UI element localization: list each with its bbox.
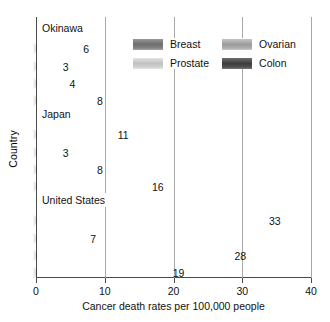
bar-value-label: 33 [264,215,281,227]
bar-value-label: 3 [58,147,69,159]
prostate-swatch [133,58,163,69]
bar-united-states-breast: 33 [37,214,264,227]
x-tick-mark-0 [36,278,37,283]
bar-value-label: 16 [147,181,164,193]
x-axis-title: Cancer death rates per 100,000 people [36,300,311,312]
bar-united-states-prostate: 7 [37,232,85,245]
x-tick-label-30: 30 [236,285,248,297]
group-label-japan: Japan [38,107,77,121]
group-label-united-states: United States [38,193,111,207]
bar-value-label: 11 [113,129,129,141]
colon-swatch [222,58,252,69]
bar-japan-ovarian: 8 [37,163,92,176]
legend-label-colon: Colon [259,57,302,69]
bar-value-label: 8 [92,95,103,107]
legend-label-ovarian: Ovarian [259,38,302,50]
y-axis-title: Country [7,114,19,184]
x-tick-label-0: 0 [33,285,39,297]
bar-value-label: 19 [168,267,185,279]
bar-okinawa-ovarian: 4 [37,77,65,90]
x-tick-label-40: 40 [305,285,317,297]
bar-united-states-ovarian: 28 [37,249,230,262]
x-tick-label-10: 10 [99,285,111,297]
cancer-death-rates-bar-chart: Country 63481138163372819 OkinawaJapanUn… [0,0,330,322]
legend-label-breast: Breast [170,38,215,50]
bar-value-label: 8 [92,164,103,176]
ovarian-swatch [222,39,252,50]
bar-japan-prostate: 3 [37,146,58,159]
bar-okinawa-colon: 8 [37,94,92,107]
bar-value-label: 6 [78,43,89,55]
x-tick-mark-10 [105,278,106,283]
x-tick-mark-20 [174,278,175,283]
bar-japan-colon: 16 [37,180,147,193]
x-tick-mark-30 [242,278,243,283]
group-label-okinawa: Okinawa [38,21,89,35]
bar-okinawa-breast: 6 [37,42,78,55]
bar-value-label: 4 [65,78,76,90]
x-tick-label-20: 20 [168,285,180,297]
bar-japan-breast: 11 [37,128,113,141]
breast-swatch [133,39,163,50]
bar-united-states-colon: 19 [37,266,168,279]
x-tick-mark-40 [311,278,312,283]
gridline-40 [311,17,312,278]
gridline-10 [105,17,106,278]
chart-legend: BreastOvarianProstateColon [133,38,302,69]
bar-value-label: 7 [85,233,96,245]
bar-value-label: 28 [230,250,247,262]
bar-okinawa-prostate: 3 [37,60,58,73]
legend-label-prostate: Prostate [170,57,215,69]
bar-value-label: 3 [58,61,69,73]
